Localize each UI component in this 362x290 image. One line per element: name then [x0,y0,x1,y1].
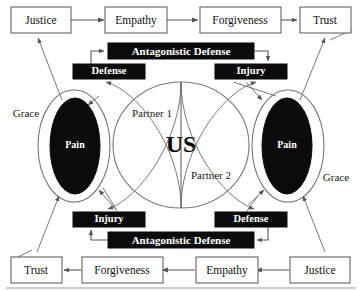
bottom-defense-cluster: Injury Defense Antagonistic Defense [73,212,287,248]
us-label: US [166,131,197,157]
connector-bottom-defense-to-right-pain [248,190,264,205]
top-justice-label: Justice [25,14,56,26]
right-pain-label: Pain [277,139,297,150]
connector-left-grace-to-justice-top [38,38,62,100]
connector-top-injury-hook-right [233,82,276,96]
diagram-canvas: US Partner 1 Partner 2 Pain Grace Pain G… [0,0,362,290]
left-grace-label: Grace [13,107,39,119]
bottom-justice-node[interactable]: Justice [290,257,350,283]
top-justice-node[interactable]: Justice [11,7,71,33]
connector-left-pain-to-bottom-injury [103,188,116,209]
left-partner-core: Pain Grace [13,90,110,202]
partner-1-label: Partner 1 [132,107,172,119]
top-defense-label: Defense [92,65,127,76]
relationship-cycle-diagram: US Partner 1 Partner 2 Pain Grace Pain G… [0,0,362,290]
connector-right-pain-to-bottom-defense [246,196,258,212]
connector-bottom-trust-to-right-grace [303,196,325,252]
connector-bottom-antagonistic-to-injury [91,230,108,240]
right-grace-label: Grace [323,171,349,183]
bottom-antagonistic-defense-label: Antagonistic Defense [132,234,231,246]
connector-bottom-justice-to-left-grace [37,196,59,252]
partner-2-label: Partner 2 [191,169,231,181]
top-trust-label: Trust [313,14,338,26]
bottom-empathy-label: Empathy [206,264,248,277]
top-injury-label: Injury [236,65,266,76]
top-defense-cluster: Antagonistic Defense Defense Injury [73,43,287,79]
connector-top-antagonistic-to-injury [254,51,268,61]
top-trust-node[interactable]: Trust [300,7,351,33]
top-antagonistic-defense-label: Antagonistic Defense [132,45,231,57]
bottom-trust-label: Trust [24,264,49,276]
bottom-justice-label: Justice [304,264,335,276]
bottom-defense-label: Defense [234,213,269,224]
bottom-forgiveness-node[interactable]: Forgiveness [82,257,163,283]
top-empathy-label: Empathy [115,14,157,27]
shared-us-region: US Partner 1 Partner 2 [113,82,249,208]
top-forgiveness-label: Forgiveness [212,14,268,27]
connector-bottom-defense-to-antagonistic [257,227,268,240]
left-pain-label: Pain [65,139,85,150]
bottom-empathy-node[interactable]: Empathy [196,257,258,283]
right-partner-core: Pain Grace [252,90,349,202]
top-forgiveness-node[interactable]: Forgiveness [200,7,281,33]
connector-right-grace-to-trust-top [300,38,325,100]
bottom-injury-label: Injury [94,213,124,224]
connector-top-defense-to-antagonistic [91,51,104,64]
bottom-trust-node[interactable]: Trust [11,257,62,283]
top-empathy-node[interactable]: Empathy [105,7,167,33]
bottom-forgiveness-label: Forgiveness [94,264,150,277]
